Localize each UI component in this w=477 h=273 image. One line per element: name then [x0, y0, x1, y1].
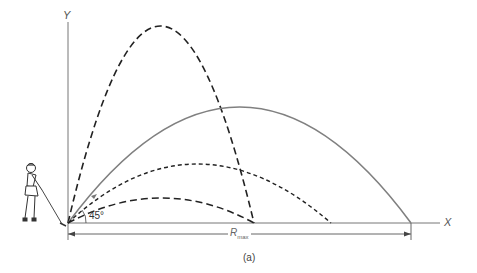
trajectory-max-range: [68, 107, 411, 223]
x-axis-label: X: [444, 216, 451, 228]
velocity-arrow-icon: [91, 194, 97, 199]
figure-caption: (a): [243, 252, 255, 263]
range-label-sub: max: [237, 234, 248, 240]
golfer-illustration: [23, 164, 66, 227]
trajectory-medium: [68, 164, 331, 223]
trajectory-steep: [68, 26, 254, 223]
y-axis-label: Y: [63, 9, 70, 21]
range-arrow-left-icon: [68, 232, 75, 237]
angle-label: 45°: [89, 210, 104, 221]
range-arrow-right-icon: [404, 232, 411, 237]
range-label: Rmax: [228, 227, 251, 240]
